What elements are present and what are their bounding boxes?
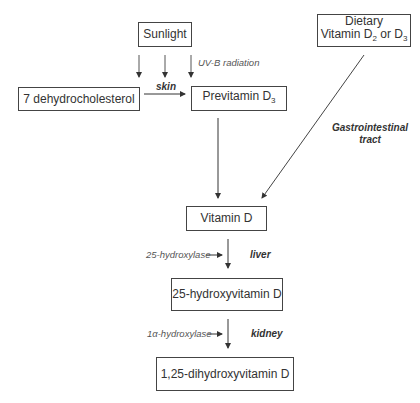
node-125-dihydroxyvitamin-d: 1,25-dihydroxyvitamin D bbox=[156, 357, 294, 391]
node-dietary-vitamin-d: Dietary Vitamin D2 or D3 bbox=[317, 14, 411, 47]
node-sunlight-label: Sunlight bbox=[143, 28, 186, 41]
node-7-dehydrocholesterol: 7 dehydrocholesterol bbox=[18, 87, 140, 111]
node-vitamin-d-label: Vitamin D bbox=[201, 212, 253, 225]
node-25-hydroxyvitamin-d: 25-hydroxyvitamin D bbox=[171, 278, 283, 311]
label-gastrointestinal-tract: Gastrointestinal tract bbox=[330, 122, 410, 146]
node-sunlight: Sunlight bbox=[138, 22, 192, 47]
node-previtamin-d3-label: Previtamin D3 bbox=[202, 90, 275, 107]
node-previtamin-d3: Previtamin D3 bbox=[191, 86, 287, 111]
node-7-dehydrocholesterol-label: 7 dehydrocholesterol bbox=[23, 93, 134, 106]
label-uvb-radiation: UV-B radiation bbox=[198, 57, 259, 68]
node-vitamin-d: Vitamin D bbox=[186, 206, 267, 231]
label-kidney: kidney bbox=[251, 328, 283, 340]
node-125-dihydroxyvitamin-d-label: 1,25-dihydroxyvitamin D bbox=[161, 368, 290, 381]
node-dietary-line2: Vitamin D2 or D3 bbox=[321, 28, 408, 45]
node-25-hydroxyvitamin-d-label: 25-hydroxyvitamin D bbox=[172, 288, 281, 301]
label-liver: liver bbox=[250, 249, 271, 261]
label-skin: skin bbox=[156, 81, 176, 93]
label-25-hydroxylase: 25-hydroxylase bbox=[146, 249, 210, 260]
label-1alpha-hydroxylase: 1α-hydroxylase bbox=[147, 328, 212, 339]
